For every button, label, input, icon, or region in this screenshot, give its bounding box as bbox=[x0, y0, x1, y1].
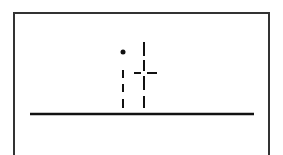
glyph-t bbox=[134, 42, 157, 108]
dashed-letters-diagram bbox=[0, 0, 283, 155]
glyph-layer bbox=[121, 42, 158, 108]
glyph-dot bbox=[121, 50, 126, 55]
glyph-i bbox=[121, 50, 126, 109]
